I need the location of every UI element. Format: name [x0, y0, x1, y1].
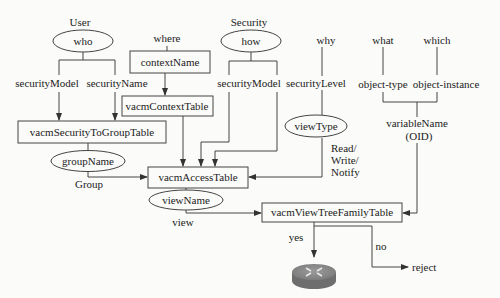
box-vacm-access-table: vacmAccessTable	[148, 167, 248, 188]
box-vacm-context-table: vacmContextTable	[122, 96, 213, 116]
header-which: which	[424, 34, 451, 46]
label-reject: reject	[412, 261, 436, 273]
label-write: Write/	[331, 154, 360, 166]
label-yes: yes	[289, 231, 304, 243]
box-context-name: contextName	[130, 51, 210, 73]
header-what: what	[372, 34, 393, 46]
router-icon	[292, 264, 336, 289]
ellipse-view-name: viewName	[149, 190, 223, 210]
label-security-name: securityName	[86, 77, 147, 89]
box-vacm-security-to-group-table: vacmSecurityToGroupTable	[18, 121, 166, 143]
box-vacm-view-tree-family-table: vacmViewTreeFamilyTable	[262, 203, 402, 222]
ellipse-view-name-label: viewName	[162, 194, 210, 206]
label-oid: (OID)	[406, 130, 433, 143]
label-view: view	[172, 216, 193, 228]
label-no: no	[376, 240, 388, 252]
ellipse-group-name: groupName	[51, 151, 125, 172]
ellipse-who-label: who	[74, 35, 93, 47]
ellipse-how: how	[221, 30, 281, 52]
label-security-model-right: securityModel	[217, 77, 281, 89]
header-user: User	[70, 16, 91, 28]
box-vacm-access-table-label: vacmAccessTable	[158, 171, 237, 183]
header-where: where	[154, 32, 181, 44]
ellipse-group-name-label: groupName	[62, 155, 114, 167]
label-group: Group	[75, 178, 104, 190]
label-object-type: object-type	[358, 78, 408, 90]
label-read: Read/	[331, 142, 358, 154]
label-object-instance: object-instance	[413, 78, 480, 90]
ellipse-who: who	[53, 30, 113, 52]
label-security-model-left: securityModel	[15, 77, 79, 89]
box-context-name-label: contextName	[141, 56, 200, 68]
header-security: Security	[231, 16, 268, 28]
box-vacm-security-to-group-table-label: vacmSecurityToGroupTable	[30, 126, 154, 138]
label-security-level: securityLevel	[286, 77, 346, 89]
ellipse-view-type: viewType	[285, 115, 347, 137]
box-vacm-view-tree-family-table-label: vacmViewTreeFamilyTable	[271, 206, 393, 218]
label-notify: Notify	[331, 166, 360, 178]
ellipse-how-label: how	[242, 35, 261, 47]
vacm-flow-diagram: User where Security why what which who h…	[0, 0, 500, 298]
header-why: why	[317, 34, 336, 46]
box-vacm-context-table-label: vacmContextTable	[126, 100, 209, 112]
ellipse-view-type-label: viewType	[294, 120, 337, 132]
label-variable-name: variableName	[386, 117, 448, 129]
